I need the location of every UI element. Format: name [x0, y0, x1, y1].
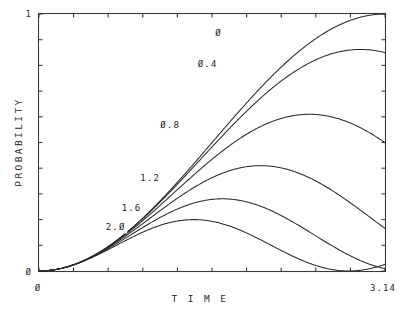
y-axis-tick-bottom: Ø [25, 267, 32, 277]
y-axis-title: PROBABILITY [13, 97, 24, 186]
curve-label-4: Ø.4 [198, 59, 218, 69]
curve-16 [39, 199, 385, 271]
curve-group [39, 14, 385, 271]
curve-label-: Ø [215, 28, 222, 38]
curve-label-2: 2.Ø [106, 222, 126, 232]
curve-2 [39, 220, 385, 271]
y-axis-tick-top: 1 [25, 9, 32, 19]
curve-label-12: 1.2 [140, 173, 160, 183]
chart-figure: ØØ.4Ø.81.21.62.Ø 1 Ø Ø 3.14 PROBABILITY … [0, 0, 418, 314]
rabi-oscillation-chart: ØØ.4Ø.81.21.62.Ø 1 Ø Ø 3.14 PROBABILITY … [0, 0, 418, 314]
x-axis-title: T I M E [172, 293, 229, 304]
x-axis-tick-right: 3.14 [370, 283, 396, 293]
x-axis-tick-left: Ø [35, 283, 42, 293]
curve-8 [39, 114, 385, 271]
curve-4 [39, 49, 385, 271]
curve-label-16: 1.6 [122, 203, 142, 213]
curve- [39, 14, 385, 271]
curve-12 [39, 166, 385, 271]
curve-label-8: Ø.8 [160, 120, 180, 130]
